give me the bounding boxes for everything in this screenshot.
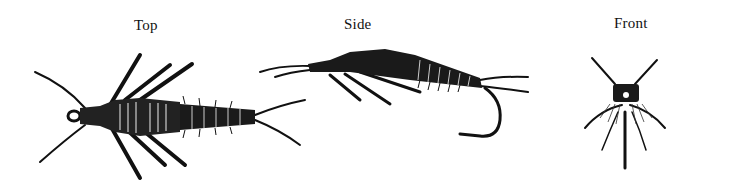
side-view-illustration	[250, 0, 540, 187]
front-view-illustration	[580, 0, 733, 187]
